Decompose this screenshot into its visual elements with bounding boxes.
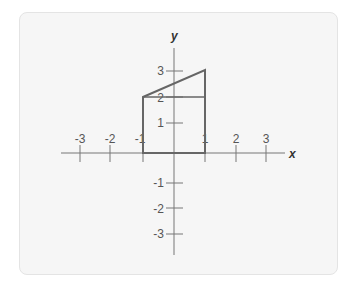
x-tick-label: 3 (263, 132, 270, 146)
x-tick-label: -3 (75, 132, 86, 146)
y-tick-label: -2 (153, 202, 164, 216)
x-axis-label: x (288, 147, 297, 161)
y-axis-label: y (170, 29, 179, 43)
y-tick-label: 3 (157, 64, 164, 78)
x-tick-label: 2 (233, 132, 240, 146)
coordinate-plane: -3 -2 -1 1 2 3 3 2 1 -1 -2 -3 y x (0, 0, 357, 286)
y-tick-label: -1 (153, 176, 164, 190)
y-tick-label: 1 (157, 116, 164, 130)
x-tick-label: -2 (105, 132, 116, 146)
y-tick-label: 2 (157, 91, 164, 105)
x-tick-label: -1 (135, 132, 146, 146)
y-tick-label: -3 (153, 227, 164, 241)
x-tick-labels: -3 -2 -1 1 2 3 (75, 132, 270, 146)
